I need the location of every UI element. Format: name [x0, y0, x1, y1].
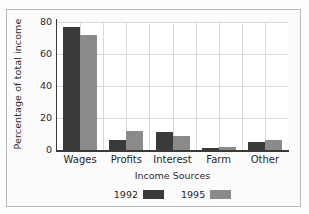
y-axis-line: [56, 19, 57, 150]
gridline-vertical: [219, 22, 220, 150]
bar: [126, 131, 143, 150]
gridline-vertical: [265, 22, 266, 150]
gridline-vertical: [242, 22, 243, 150]
x-axis-ticks: WagesProfitsInterestFarmOther: [57, 154, 288, 168]
gridline-vertical: [149, 22, 150, 150]
gridline-vertical: [103, 22, 104, 150]
gridline-vertical: [173, 22, 174, 150]
y-tick-label: 80: [30, 17, 52, 27]
cropped-text-sliver: [8, 0, 178, 7]
bar: [248, 142, 265, 150]
bar: [173, 136, 190, 150]
legend: 19921995: [57, 188, 288, 201]
x-axis-line: [56, 150, 289, 152]
x-axis-title: Income Sources: [57, 170, 288, 181]
bar: [156, 132, 173, 150]
bar: [63, 27, 80, 150]
bar: [265, 140, 282, 150]
x-tick-label: Other: [225, 154, 305, 165]
y-tick-label: 20: [30, 113, 52, 123]
y-axis-ticks: 806040200: [25, 22, 52, 150]
y-tick-label: 60: [30, 49, 52, 59]
legend-color-swatch: [210, 190, 231, 199]
legend-item: 1992: [114, 189, 164, 200]
plot-area: [57, 22, 288, 150]
bar: [80, 35, 97, 150]
y-axis-title-text: Percentage of total income: [12, 18, 23, 149]
figure: Percentage of total income 806040200 Wag…: [0, 0, 309, 214]
legend-item-label: 1992: [114, 189, 138, 200]
bar: [109, 140, 126, 150]
y-tick-label: 40: [30, 81, 52, 91]
legend-item-label: 1995: [181, 189, 205, 200]
gridline-vertical: [196, 22, 197, 150]
legend-item: 1995: [181, 189, 231, 200]
y-axis-title: Percentage of total income: [10, 16, 24, 151]
legend-color-swatch: [143, 190, 164, 199]
